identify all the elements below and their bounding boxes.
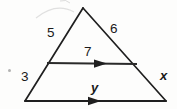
scan-speck bbox=[8, 69, 11, 72]
scan-artifact-curve bbox=[36, 8, 74, 18]
label-lower-left-side: 3 bbox=[21, 70, 29, 84]
triangle-transversal bbox=[47, 63, 137, 64]
parallel-arrow-icon-base bbox=[88, 97, 101, 105]
label-upper-left-side: 5 bbox=[47, 26, 55, 40]
label-base-variable: y bbox=[91, 81, 98, 94]
scan-artifact-tick bbox=[60, 0, 70, 3]
parallel-arrow-icon-transversal bbox=[94, 60, 107, 68]
label-lower-right-side-variable: x bbox=[160, 69, 167, 82]
geometry-figure: 5 6 3 7 y x bbox=[0, 0, 177, 109]
label-transversal: 7 bbox=[84, 45, 92, 59]
label-upper-right-side: 6 bbox=[110, 22, 118, 36]
triangle-left-side bbox=[25, 8, 83, 101]
